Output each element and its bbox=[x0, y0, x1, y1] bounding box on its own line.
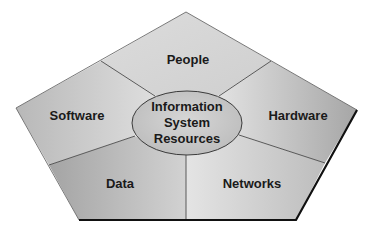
label-data: Data bbox=[106, 176, 135, 191]
information-system-resources-diagram: Information System Resources People Hard… bbox=[0, 0, 375, 238]
label-software: Software bbox=[50, 108, 105, 123]
center-label-line1: Information bbox=[151, 99, 223, 114]
label-networks: Networks bbox=[223, 176, 282, 191]
center-label-line3: Resources bbox=[154, 131, 220, 146]
center-label-line2: System bbox=[164, 115, 210, 130]
label-hardware: Hardware bbox=[268, 108, 327, 123]
label-people: People bbox=[167, 52, 210, 67]
